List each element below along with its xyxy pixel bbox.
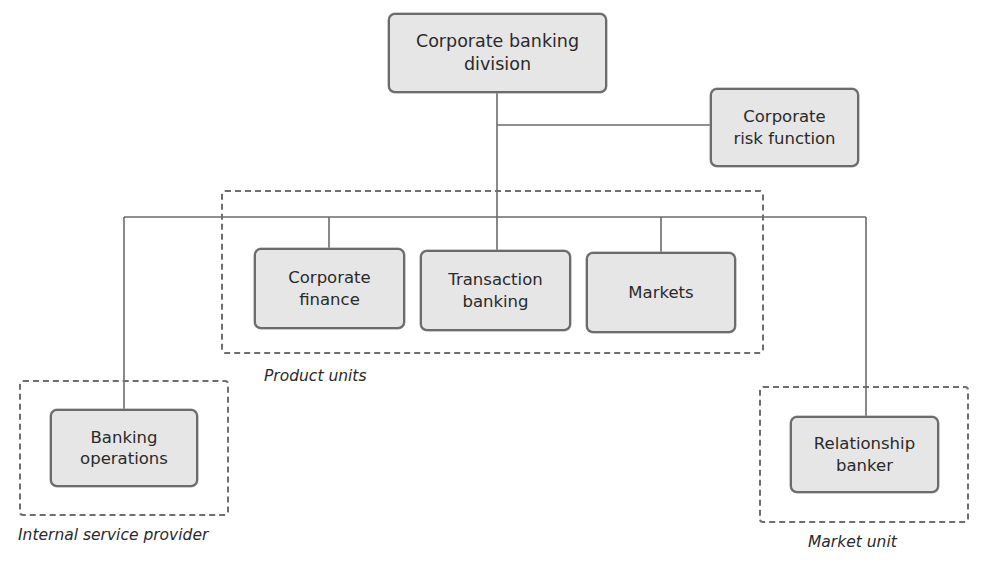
internal-service-provider-label: Internal service provider xyxy=(18,526,208,544)
corporate-risk-function-node: Corporate risk function xyxy=(710,88,859,167)
markets-node: Markets xyxy=(586,252,736,333)
markets-label: Markets xyxy=(628,282,693,303)
relationship-banker-label: Relationship banker xyxy=(814,433,915,476)
market-unit-label: Market unit xyxy=(808,533,897,551)
banking-operations-node: Banking operations xyxy=(50,409,198,487)
banking-operations-label: Banking operations xyxy=(80,427,168,470)
product-units-label: Product units xyxy=(264,367,367,385)
transaction-banking-label: Transaction banking xyxy=(448,269,542,312)
transaction-banking-node: Transaction banking xyxy=(420,250,571,331)
corporate-banking-division-label: Corporate banking division xyxy=(416,30,579,76)
corporate-banking-division-node: Corporate banking division xyxy=(388,13,607,93)
corporate-risk-function-label: Corporate risk function xyxy=(733,106,835,149)
relationship-banker-node: Relationship banker xyxy=(790,416,939,493)
corporate-finance-node: Corporate finance xyxy=(254,248,405,329)
corporate-finance-label: Corporate finance xyxy=(288,267,370,310)
